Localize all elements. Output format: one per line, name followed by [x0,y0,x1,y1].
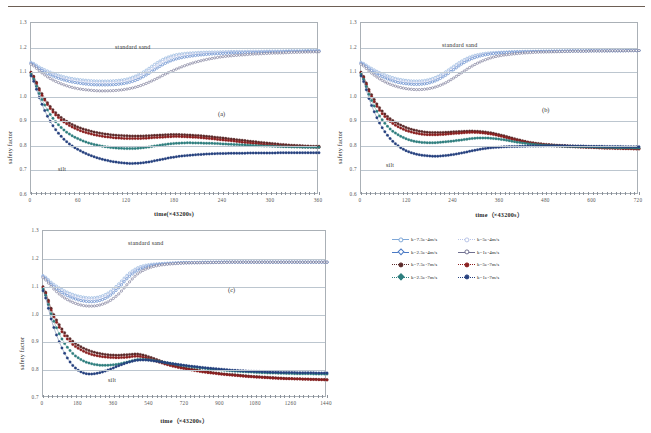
x-axis-tickmark [132,192,133,195]
chart-panel-a: safety factor standard sand silt (a) tim… [0,14,330,224]
x-axis-tickmark [237,395,238,398]
x-axis-tickmark [366,192,367,195]
legend-marker-icon [392,249,409,256]
x-axis-tickmark [472,192,473,195]
x-axis-tickmark [50,192,51,195]
legend-item[interactable]: k=7.5e-7m/s [392,261,437,268]
series-8 [42,290,329,376]
x-axis-tickmark [285,192,286,195]
x-axis-tickmark [127,192,128,195]
x-axis-tickmark [36,192,37,195]
x-tick-label: 600 [587,197,596,203]
x-axis-tickmark [265,395,266,398]
legend-label: k=2.5e-7m/s [411,275,437,280]
x-axis-tickmark [375,192,376,195]
x-axis-tickmark [65,192,66,195]
x-axis-tickmark [454,192,455,195]
x-tick-label: 360 [314,197,323,203]
x-axis-tickmark [137,192,138,195]
legend-item[interactable]: k=7.5e-4m/s [392,236,437,243]
x-axis-tickmark [86,395,87,398]
legend-label: k=7.5e-7m/s [411,262,437,267]
legend-item[interactable]: k=1e-4m/s [458,249,499,256]
x-tick-label: 720 [634,197,643,203]
x-axis-tickmark [152,395,153,398]
gridline-horizontal [361,170,637,171]
x-axis-tickmark [117,192,118,195]
x-axis-tickmark [546,192,547,195]
x-axis-tickmark [519,192,520,195]
x-axis-tickmark [281,192,282,195]
x-axis-tickmark [303,395,304,398]
y-tick-label: 0.8 [17,366,39,372]
x-axis-tickmark [57,395,58,398]
panel-b-id: (b) [542,106,549,113]
gridline-horizontal [361,146,637,147]
panel-a-curves [31,23,319,195]
x-axis-tickmark [199,192,200,195]
x-axis-tickmark [463,192,464,195]
x-axis-tickmark [114,395,115,398]
x-axis-tickmark [142,395,143,398]
x-axis-tickmark [242,395,243,398]
x-axis-tickmark [69,192,70,195]
x-tick-label: 480 [541,197,550,203]
y-tick-label: 1.3 [17,227,39,233]
legend-item[interactable]: k=1e-7m/s [458,274,499,281]
x-axis-tickmark [266,192,267,195]
x-axis-tickmark [247,192,248,195]
x-axis-tickmark [620,192,621,195]
x-axis-tickmark [31,192,32,195]
y-tick-label: 1.0 [17,311,39,317]
x-axis-tickmark [233,192,234,195]
x-tick-label: 240 [218,197,227,203]
legend-item[interactable]: k=5e-4m/s [458,236,499,243]
y-tick-label: 0.9 [335,117,357,123]
series-6 [30,71,321,148]
x-axis-tickmark [319,192,320,195]
x-axis-tickmark [84,192,85,195]
x-axis-tickmark [161,395,162,398]
series-4 [360,49,640,90]
x-tick-label: 720 [180,400,189,406]
x-axis-tickmark [309,192,310,195]
chart-panel-b: safety factor standard sand silt (b) tim… [330,14,651,224]
gridline-horizontal [31,72,317,73]
x-axis-tickmark [161,192,162,195]
x-tick-label: 0 [29,197,32,203]
x-axis-tickmark [435,192,436,195]
gridline-horizontal [31,146,317,147]
x-axis-tickmark [128,395,129,398]
gridline-horizontal [361,72,637,73]
legend-item[interactable]: k=5e-7m/s [458,261,499,268]
panel-c-annotation-silt: silt [108,377,116,383]
gridline-horizontal [43,315,325,316]
x-axis-tickmark [151,192,152,195]
x-axis-tickmark [565,192,566,195]
y-tick-label: 0.7 [5,166,27,172]
legend-label: k=1e-7m/s [477,275,499,280]
gridline-horizontal [31,97,317,98]
panel-a-annotation-silt: silt [58,166,66,172]
x-axis-tickmark [607,192,608,195]
x-axis-tickmark [639,192,640,195]
legend-marker-icon [392,274,409,281]
x-tick-label: 120 [122,197,131,203]
x-tick-label: 0 [359,197,362,203]
x-axis-tickmark [421,192,422,195]
x-axis-tickmark [170,192,171,195]
x-axis-tickmark [189,192,190,195]
x-axis-tickmark [491,192,492,195]
legend-item[interactable]: k=2.5e-7m/s [392,274,437,281]
legend-item[interactable]: k=2.5e-4m/s [392,249,437,256]
series-1 [30,49,320,82]
x-axis-tickmark [176,395,177,398]
x-axis-tickmark [611,192,612,195]
x-axis-tickmark [218,192,219,195]
panel-b-plot-area [360,22,638,194]
x-axis-tickmark [583,192,584,195]
x-tick-label: 180 [73,400,82,406]
x-axis-tickmark [412,192,413,195]
x-axis-tickmark [313,395,314,398]
x-axis-tickmark [523,192,524,195]
